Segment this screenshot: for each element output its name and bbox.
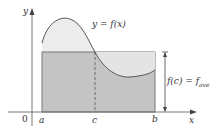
average-value-label: f(c) = fave [167,77,210,88]
average-value-label-main: f(c) = f [167,76,199,86]
tick-label-b: b [152,115,158,124]
height-arrow-up-icon [163,52,167,57]
origin-label: 0 [22,115,28,124]
curve-label: y = f(x) [92,20,126,29]
y-axis-arrow-icon [30,8,35,15]
y-axis-label: y [23,7,28,16]
x-axis-label: x [189,116,194,125]
tick-label-c: c [92,116,97,125]
tick-label-a: a [39,116,44,125]
height-arrow-down-icon [163,107,167,112]
x-axis-arrow-icon [190,110,197,115]
average-value-label-subscript: ave [199,81,210,88]
